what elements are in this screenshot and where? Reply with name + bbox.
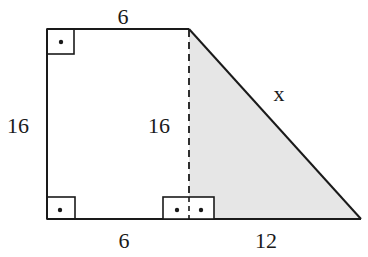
label-hypotenuse: x (274, 81, 285, 106)
label-bottom-right: 12 (255, 228, 277, 253)
right-angle-marker-top-left (47, 29, 74, 54)
trapezoid-diagram: 6 16 16 x 6 12 (0, 0, 368, 257)
label-left: 16 (7, 113, 29, 138)
label-height: 16 (148, 113, 170, 138)
label-top: 6 (118, 4, 129, 29)
dot-icon (58, 208, 62, 212)
dot-icon (175, 208, 179, 212)
right-angle-marker-bottom-left (47, 197, 75, 219)
dot-icon (199, 208, 203, 212)
right-angle-marker-foot (163, 197, 214, 219)
label-bottom-left: 6 (119, 228, 130, 253)
dot-icon (59, 40, 63, 44)
